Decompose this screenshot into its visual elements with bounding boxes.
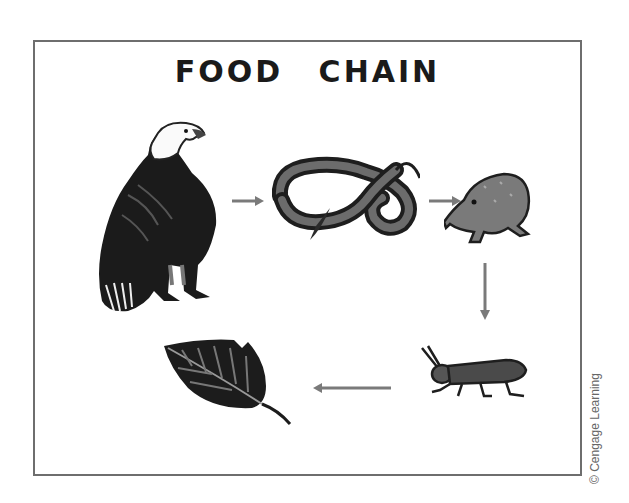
- eagle-illustration: [88, 115, 228, 315]
- arrow-eagle-to-snake: [231, 194, 265, 208]
- frog-illustration: [444, 170, 534, 246]
- copyright-credit: © Cengage Learning: [588, 373, 602, 484]
- arrow-frog-to-grasshopper: [478, 262, 492, 322]
- diagram-title: FOOD CHAIN: [35, 54, 580, 89]
- snake-illustration: [270, 148, 420, 243]
- arrow-grasshopper-to-leaf: [312, 381, 392, 395]
- grasshopper-illustration: [414, 344, 534, 400]
- leaf-illustration: [162, 338, 298, 426]
